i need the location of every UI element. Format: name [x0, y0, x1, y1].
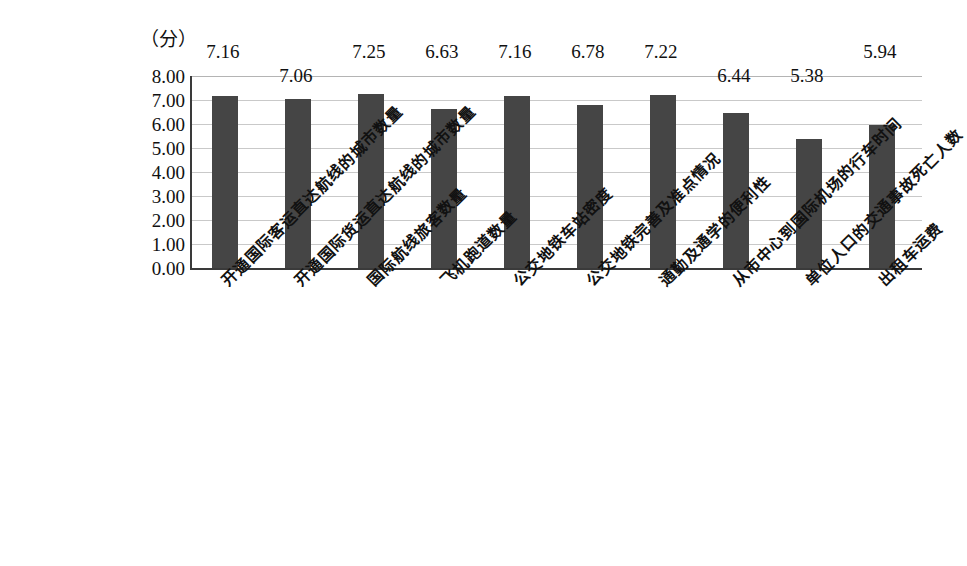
bar	[212, 96, 238, 268]
y-axis-tick-label: 0.00	[152, 259, 185, 278]
y-axis-tick-label: 8.00	[152, 67, 185, 86]
y-axis-tick-label: 2.00	[152, 211, 185, 230]
y-axis-tick-label: 5.00	[152, 139, 185, 158]
y-axis-tick-label: 1.00	[152, 235, 185, 254]
y-axis-tick-label: 6.00	[152, 115, 185, 134]
y-axis-tick-label: 4.00	[152, 163, 185, 182]
bar-value-label: 5.38	[790, 66, 823, 85]
bar	[285, 99, 311, 268]
y-axis-unit-label: （分）	[140, 30, 197, 49]
bar-value-label: 7.22	[644, 42, 677, 61]
bar	[504, 96, 530, 268]
y-axis-tick-label: 3.00	[152, 187, 185, 206]
bar-value-label: 7.25	[352, 42, 385, 61]
bar-value-label: 7.06	[279, 66, 312, 85]
bar-value-label: 5.94	[863, 42, 896, 61]
bar-value-label: 6.63	[425, 42, 458, 61]
bar-value-label: 7.16	[498, 42, 531, 61]
bar-value-label: 7.16	[206, 42, 239, 61]
bar-value-label: 6.44	[717, 66, 750, 85]
bar-value-label: 6.78	[571, 42, 604, 61]
bar	[577, 105, 603, 268]
bar	[650, 95, 676, 268]
y-axis-tick-label: 7.00	[152, 91, 185, 110]
